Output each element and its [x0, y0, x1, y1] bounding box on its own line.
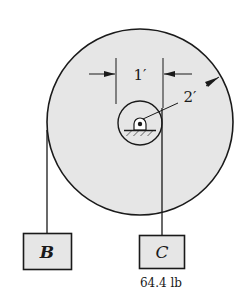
block-c-weight: 64.4 lb: [140, 276, 182, 290]
hub-spacing-label: 1′: [134, 66, 148, 84]
block-b-label: B: [39, 242, 54, 262]
block-c-label: C: [155, 242, 168, 262]
radius-label: 2′: [184, 88, 198, 106]
pulley-diagram: 1′ 2′ B C 64.4 lb: [0, 0, 242, 302]
block-c: C 64.4 lb: [140, 236, 185, 291]
block-b: B: [24, 234, 72, 270]
